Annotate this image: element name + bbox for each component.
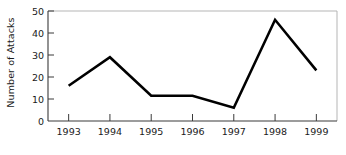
plot-frame [48,11,337,121]
plot-area [0,0,346,155]
line-chart: Number of Attacks 01020304050 1993199419… [0,0,346,155]
x-axis-ticks [69,114,317,121]
data-series-line [69,20,317,108]
y-axis-ticks [48,11,54,99]
